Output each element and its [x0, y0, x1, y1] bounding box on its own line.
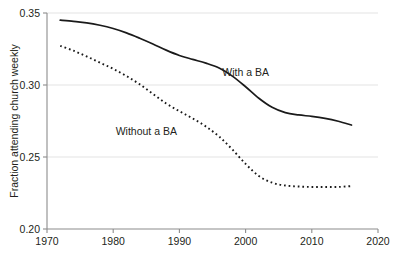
x-tick-label: 1970: [35, 235, 59, 247]
y-tick-label: 0.30: [20, 79, 41, 91]
y-axis-title: Fraction attending church weekly: [8, 44, 20, 198]
x-tick-label: 2010: [300, 235, 324, 247]
x-tick-label: 1980: [102, 235, 126, 247]
chart-container: 0.350.300.250.20197019801990200020102020…: [0, 0, 397, 263]
y-tick-label: 0.20: [20, 223, 41, 235]
chart-background: [0, 0, 397, 263]
y-tick-label: 0.35: [20, 7, 41, 19]
series-label-without-a-ba: Without a BA: [116, 125, 177, 137]
x-tick-label: 1990: [168, 235, 192, 247]
x-tick-label: 2020: [366, 235, 390, 247]
x-tick-label: 2000: [234, 235, 258, 247]
y-tick-label: 0.25: [20, 151, 41, 163]
series-label-with-a-ba: With a BA: [222, 66, 269, 78]
line-chart: 0.350.300.250.20197019801990200020102020…: [0, 0, 397, 263]
